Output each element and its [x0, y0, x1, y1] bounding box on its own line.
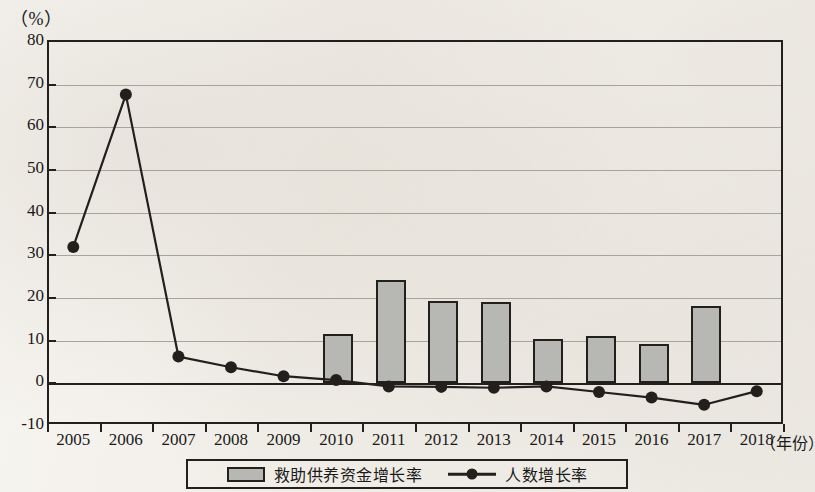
x-axis-tick-label-2014: 2014 — [516, 430, 576, 450]
gridline — [49, 85, 781, 86]
x-axis-tick-label-2012: 2012 — [411, 430, 471, 450]
x-axis-tick-label-2015: 2015 — [569, 430, 629, 450]
gridline — [49, 213, 781, 214]
y-axis-tick-label: 80 — [2, 30, 44, 50]
x-axis-tick-label-2011: 2011 — [359, 430, 419, 450]
x-axis-tick-label-2010: 2010 — [306, 430, 366, 450]
bar-2017 — [691, 306, 721, 384]
y-axis-tick-mark — [49, 297, 56, 299]
bar-2015 — [586, 336, 616, 383]
bar-2013 — [481, 302, 511, 383]
x-axis-tick-label-2006: 2006 — [96, 430, 156, 450]
y-axis-tick-mark — [49, 382, 56, 384]
legend-bar-label: 救助供养资金增长率 — [274, 462, 423, 486]
bar-2010 — [323, 334, 353, 383]
bar-2012 — [428, 301, 458, 383]
zero-baseline — [49, 383, 781, 385]
x-axis-tick-label-2009: 2009 — [254, 430, 314, 450]
y-axis-tick-label: 0 — [2, 371, 44, 391]
legend-line-label: 人数增长率 — [505, 462, 588, 486]
chart-figure: （%） -1001020304050607080 200520062007200… — [0, 0, 815, 492]
x-axis-tick-label-2016: 2016 — [622, 430, 682, 450]
y-axis-tick-mark — [49, 126, 56, 128]
y-axis-tick-mark — [49, 340, 56, 342]
y-axis-tick-label: 30 — [2, 243, 44, 263]
x-axis-tick-label-2017: 2017 — [674, 430, 734, 450]
x-axis-tick-label-2005: 2005 — [43, 430, 103, 450]
legend-line-marker-icon — [448, 467, 496, 481]
legend-entry-line-series: 人数增长率 — [448, 462, 588, 486]
gridline — [49, 127, 781, 128]
bar-2014 — [533, 339, 563, 384]
x-axis-title: （年份） — [760, 430, 815, 454]
gridline — [49, 298, 781, 299]
legend-entry-bar-series: 救助供养资金增长率 — [227, 462, 423, 486]
gridline — [49, 341, 781, 342]
x-axis-tick-label-2007: 2007 — [148, 430, 208, 450]
gridline — [49, 170, 781, 171]
y-axis-tick-mark — [49, 254, 56, 256]
legend-bar-swatch-icon — [227, 467, 265, 482]
y-axis-tick-label: 70 — [2, 73, 44, 93]
y-axis-tick-label: -10 — [2, 414, 44, 434]
x-axis-tick-label-2013: 2013 — [464, 430, 524, 450]
y-axis-tick-label: 40 — [2, 201, 44, 221]
bar-2016 — [639, 344, 669, 384]
y-axis-tick-label: 20 — [2, 286, 44, 306]
y-axis-tick-labels: -1001020304050607080 — [0, 0, 44, 492]
plot-area — [47, 40, 783, 424]
y-axis-tick-mark — [49, 169, 56, 171]
y-axis-tick-label: 50 — [2, 158, 44, 178]
x-axis-tick-label-2008: 2008 — [201, 430, 261, 450]
gridline — [49, 255, 781, 256]
y-axis-tick-mark — [49, 212, 56, 214]
y-axis-tick-mark — [49, 84, 56, 86]
y-axis-tick-label: 10 — [2, 329, 44, 349]
y-axis-tick-label: 60 — [2, 115, 44, 135]
chart-legend: 救助供养资金增长率 人数增长率 — [186, 459, 628, 489]
bar-2011 — [376, 280, 406, 384]
